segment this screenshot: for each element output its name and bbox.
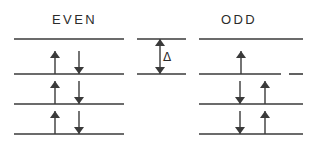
- arrow-head: [50, 111, 60, 118]
- even-level-4-spin-down-arrow-1: [74, 111, 84, 134]
- arrow-head: [235, 97, 245, 104]
- odd-level-4-spin-up-arrow-1: [260, 111, 270, 134]
- arrow-head: [50, 51, 60, 58]
- even-level-4-spin-up-arrow-0: [50, 111, 60, 134]
- double-arrow-head-down: [155, 67, 165, 74]
- arrow-head: [260, 111, 270, 118]
- arrow-head: [74, 97, 84, 104]
- energy-level-diagram-canvas: [0, 0, 316, 161]
- arrow-head: [260, 81, 270, 88]
- odd-panel-title: ODD: [221, 12, 257, 27]
- even-level-3-spin-down-arrow-1: [74, 81, 84, 104]
- arrow-head: [74, 127, 84, 134]
- double-arrow-head-up: [155, 39, 165, 46]
- arrow-head: [50, 81, 60, 88]
- even-level-2-spin-down-arrow-1: [74, 51, 84, 74]
- energy-level-figure: EVEN ODD Δ: [0, 0, 316, 161]
- odd-level-3-spin-down-arrow-0: [235, 81, 245, 104]
- odd-level-3-spin-up-arrow-1: [260, 81, 270, 104]
- arrow-head: [74, 67, 84, 74]
- odd-level-2-spin-up-arrow-0: [236, 51, 246, 74]
- energy-gap-delta-label: Δ: [163, 50, 171, 64]
- odd-level-4-spin-down-arrow-0: [235, 111, 245, 134]
- arrow-head: [235, 127, 245, 134]
- even-level-3-spin-up-arrow-0: [50, 81, 60, 104]
- even-level-2-spin-up-arrow-0: [50, 51, 60, 74]
- arrow-head: [236, 51, 246, 58]
- even-panel-title: EVEN: [52, 12, 97, 27]
